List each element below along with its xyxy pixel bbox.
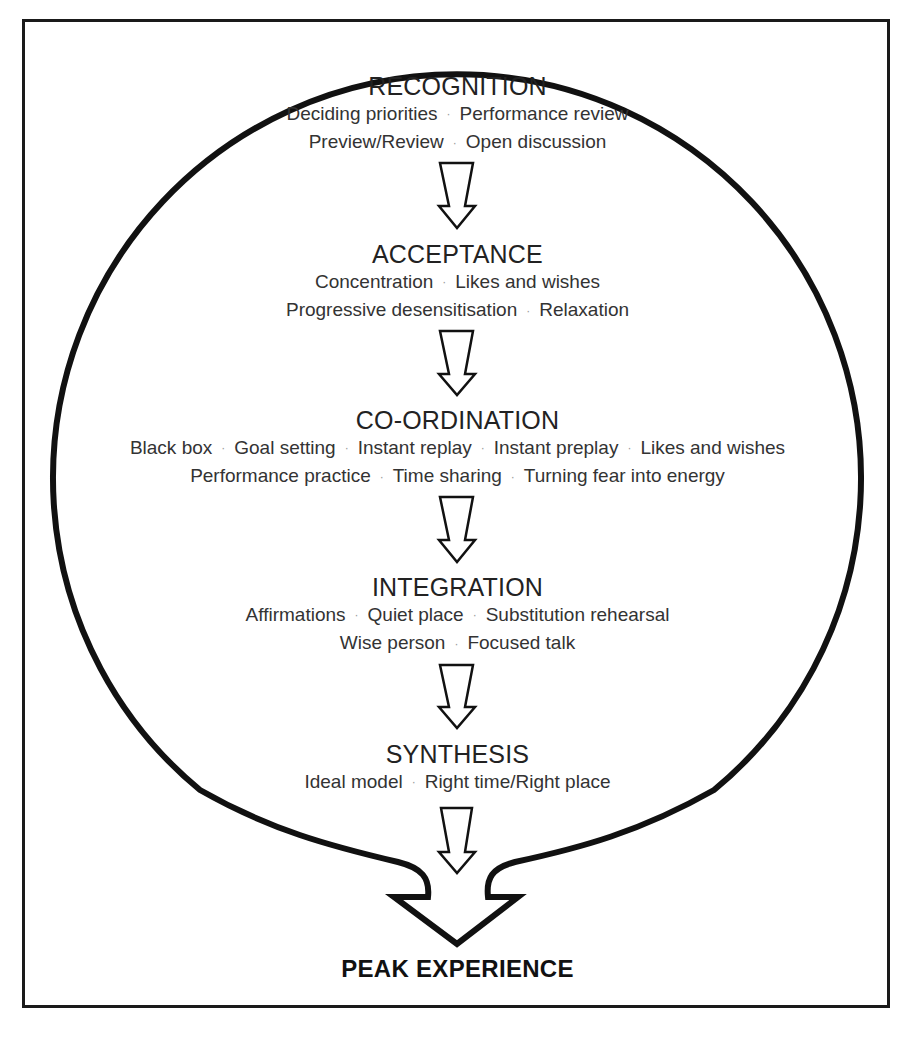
separator-dot: · bbox=[502, 464, 524, 491]
stage-techniques-line: Concentration·Likes and wishes bbox=[0, 268, 915, 296]
technique: Likes and wishes bbox=[640, 437, 785, 458]
technique: Likes and wishes bbox=[455, 271, 600, 292]
separator-dot: · bbox=[445, 631, 467, 658]
technique: Focused talk bbox=[467, 632, 575, 653]
arrow-icon-4 bbox=[439, 665, 475, 728]
separator-dot: · bbox=[444, 130, 466, 157]
arrow-icon-1 bbox=[439, 163, 475, 228]
stage-techniques-line: Progressive desensitisation·Relaxation bbox=[0, 296, 915, 324]
stage-title: INTEGRATION bbox=[0, 573, 915, 601]
technique: Quiet place bbox=[368, 604, 464, 625]
technique: Concentration bbox=[315, 271, 433, 292]
stage-techniques-line: Ideal model·Right time/Right place bbox=[0, 768, 915, 796]
technique: Relaxation bbox=[539, 299, 629, 320]
stage-techniques-line: Black box·Goal setting·Instant replay·In… bbox=[0, 434, 915, 462]
technique: Performance practice bbox=[190, 465, 371, 486]
separator-dot: · bbox=[403, 769, 425, 796]
stage-title: ACCEPTANCE bbox=[0, 240, 915, 268]
outcome-label: PEAK EXPERIENCE bbox=[0, 955, 915, 983]
technique: Ideal model bbox=[304, 771, 402, 792]
stage-techniques-line: Wise person·Focused talk bbox=[0, 629, 915, 657]
separator-dot: · bbox=[472, 435, 494, 462]
stage-techniques-line: Deciding priorities·Performance review bbox=[0, 100, 915, 128]
technique: Substitution rehearsal bbox=[486, 604, 670, 625]
stage-recognition: RECOGNITION Deciding priorities·Performa… bbox=[0, 72, 915, 157]
technique: Affirmations bbox=[246, 604, 346, 625]
technique: Preview/Review bbox=[309, 131, 444, 152]
stage-techniques-line: Affirmations·Quiet place·Substitution re… bbox=[0, 601, 915, 629]
technique: Time sharing bbox=[393, 465, 502, 486]
stage-synthesis: SYNTHESIS Ideal model·Right time/Right p… bbox=[0, 740, 915, 796]
technique: Wise person bbox=[340, 632, 446, 653]
separator-dot: · bbox=[346, 602, 368, 629]
stage-techniques-line: Preview/Review·Open discussion bbox=[0, 128, 915, 156]
technique: Open discussion bbox=[466, 131, 606, 152]
stage-acceptance: ACCEPTANCE Concentration·Likes and wishe… bbox=[0, 240, 915, 325]
technique: Instant replay bbox=[358, 437, 472, 458]
separator-dot: · bbox=[618, 435, 640, 462]
separator-dot: · bbox=[517, 298, 539, 325]
stage-title: RECOGNITION bbox=[0, 72, 915, 100]
stage-title: CO-ORDINATION bbox=[0, 406, 915, 434]
separator-dot: · bbox=[336, 435, 358, 462]
separator-dot: · bbox=[464, 602, 486, 629]
separator-dot: · bbox=[438, 101, 460, 128]
technique: Right time/Right place bbox=[425, 771, 611, 792]
technique: Deciding priorities bbox=[287, 103, 438, 124]
technique: Instant preplay bbox=[494, 437, 619, 458]
stage-co-ordination: CO-ORDINATION Black box·Goal setting·Ins… bbox=[0, 406, 915, 491]
arrow-icon-2 bbox=[439, 331, 475, 395]
technique: Goal setting bbox=[234, 437, 335, 458]
separator-dot: · bbox=[433, 269, 455, 296]
separator-dot: · bbox=[212, 435, 234, 462]
technique: Performance review bbox=[460, 103, 629, 124]
technique: Turning fear into energy bbox=[524, 465, 725, 486]
stage-techniques-line: Performance practice·Time sharing·Turnin… bbox=[0, 462, 915, 490]
arrow-icon-3 bbox=[439, 497, 475, 562]
technique: Progressive desensitisation bbox=[286, 299, 517, 320]
arrow-icon-5 bbox=[439, 808, 475, 873]
separator-dot: · bbox=[371, 464, 393, 491]
stage-title: SYNTHESIS bbox=[0, 740, 915, 768]
technique: Black box bbox=[130, 437, 212, 458]
stage-integration: INTEGRATION Affirmations·Quiet place·Sub… bbox=[0, 573, 915, 658]
